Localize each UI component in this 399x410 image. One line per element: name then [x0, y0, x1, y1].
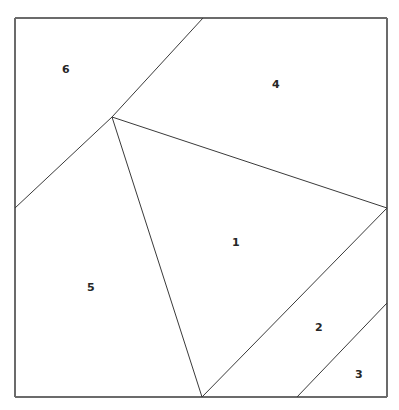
diagram-canvas: 1 2 3 4 5 6: [0, 0, 399, 410]
region-label-6: 6: [62, 63, 70, 76]
region-labels: 1 2 3 4 5 6: [62, 63, 363, 381]
divider-region2-region3: [297, 303, 387, 397]
divider-segments: [15, 18, 387, 397]
divider-region4-region1: [112, 117, 387, 208]
divider-region6-region4-upper: [112, 18, 203, 117]
region-label-1: 1: [232, 236, 240, 249]
region-label-3: 3: [355, 368, 363, 381]
region-label-5: 5: [87, 281, 95, 294]
divider-region5-region1: [112, 117, 202, 397]
square-frame: [15, 18, 387, 397]
partitioned-square-figure: 1 2 3 4 5 6: [0, 0, 399, 410]
region-label-2: 2: [315, 321, 323, 334]
divider-region6-region5: [15, 117, 112, 208]
region-label-4: 4: [272, 78, 280, 91]
